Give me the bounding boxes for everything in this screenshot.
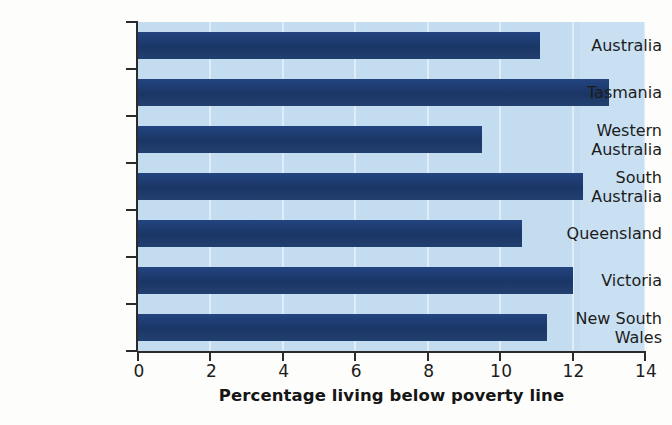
- x-tick-mark: [137, 352, 139, 361]
- bar: [138, 126, 482, 153]
- category-label: SouthAustralia: [548, 168, 672, 206]
- y-tick-mark: [126, 115, 138, 117]
- y-tick-mark: [126, 162, 138, 164]
- y-tick-mark: [126, 21, 138, 23]
- x-tick-mark: [644, 352, 646, 361]
- x-axis-title: Percentage living below poverty line: [138, 386, 645, 405]
- x-tick-label: 8: [409, 361, 449, 381]
- bar: [138, 314, 547, 341]
- y-tick-mark: [126, 256, 138, 258]
- x-tick-label: 0: [119, 361, 159, 381]
- x-tick-label: 2: [191, 361, 231, 381]
- x-tick-mark: [209, 352, 211, 361]
- bar: [138, 32, 540, 59]
- category-label: Queensland: [548, 224, 672, 243]
- category-label: WesternAustralia: [548, 121, 672, 159]
- x-tick-mark: [427, 352, 429, 361]
- y-tick-mark: [126, 303, 138, 305]
- category-label-line: Queensland: [548, 224, 662, 243]
- x-axis-line: [137, 351, 646, 353]
- y-tick-mark: [126, 209, 138, 211]
- x-tick-label: 14: [626, 361, 666, 381]
- x-tick-mark: [282, 352, 284, 361]
- x-tick-mark: [572, 352, 574, 361]
- category-label-line: Australia: [548, 140, 662, 159]
- category-label-line: Australia: [548, 187, 662, 206]
- bar-chart: 02468101214 AustraliaTasmaniaWesternAust…: [0, 0, 672, 425]
- bar: [138, 79, 609, 106]
- category-label-line: Victoria: [548, 271, 662, 290]
- category-label-line: Wales: [548, 328, 662, 347]
- x-tick-mark: [499, 352, 501, 361]
- category-label-line: New South: [548, 309, 662, 328]
- category-label: Victoria: [548, 271, 672, 290]
- bar: [138, 173, 583, 200]
- category-label-line: Australia: [548, 36, 662, 55]
- category-label-line: South: [548, 168, 662, 187]
- bar: [138, 220, 522, 247]
- category-label-line: Western: [548, 121, 662, 140]
- x-tick-label: 6: [336, 361, 376, 381]
- category-label: New SouthWales: [548, 309, 672, 347]
- y-tick-mark: [126, 68, 138, 70]
- y-tick-mark: [126, 350, 138, 352]
- category-label-line: Tasmania: [548, 83, 662, 102]
- category-label: Australia: [548, 36, 672, 55]
- bar: [138, 267, 573, 294]
- category-label: Tasmania: [548, 83, 672, 102]
- x-tick-label: 4: [264, 361, 304, 381]
- x-tick-label: 12: [554, 361, 594, 381]
- x-tick-label: 10: [481, 361, 521, 381]
- x-tick-mark: [354, 352, 356, 361]
